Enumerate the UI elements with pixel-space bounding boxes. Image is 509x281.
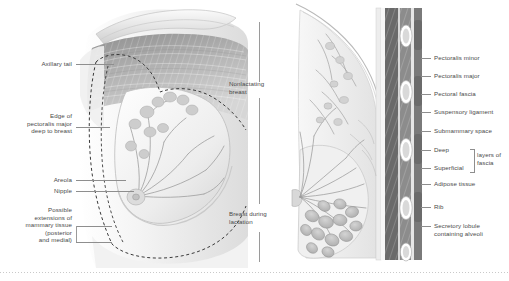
label-possible-extensions: Possible extensions of mammary tissue (p… [2,206,72,244]
label-secretory-lobule: Secretory lobule containing alveoli [434,222,508,237]
label-rib: Rib [434,203,474,211]
leader-pectoralis-minor [421,58,431,59]
divider-lactation-lower [259,232,260,262]
leader-possible-extensions-upper [76,226,112,227]
leader-pectoralis-major [421,76,431,77]
leader-nipple [76,191,134,192]
leader-adipose-tissue [421,184,431,185]
label-areola: Areola [18,176,72,184]
divider-nonlactating-lower [259,98,260,204]
label-nonlactating-breast: Nonlactating breast [229,80,289,95]
leader-axillary-tail [76,64,114,65]
right-illustration [292,4,422,262]
leader-areola [76,180,126,181]
leader-suspensory-ligament [421,112,431,113]
divider-nonlactating-upper [259,22,260,82]
label-superficial-fascia: Superficial [434,164,472,172]
label-breast-during-lactation: Breast during lactation [229,210,291,225]
label-pectoral-fascia: Pectoral fascia [434,90,508,98]
label-axillary-tail: Axillary tail [6,60,72,68]
left-illustration [80,10,248,268]
label-pectoralis-minor: Pectoralis minor [434,54,508,62]
label-adipose-tissue: Adipose tissue [434,180,508,188]
leader-secretory-lobule [421,226,431,227]
leader-submammary-space [421,131,431,132]
leader-edge-pectoralis-major [76,127,110,128]
bracket-layers-of-fascia [470,149,475,173]
figure-canvas: Axillary tail Edge of pectoralis major d… [0,0,509,281]
label-edge-pectoralis-major: Edge of pectoralis major deep to breast [2,112,72,135]
leader-deep-fascia [421,150,431,151]
label-deep-fascia: Deep [434,146,468,154]
leader-superficial-fascia [421,168,431,169]
leader-possible-extensions-lower [76,242,112,243]
label-submammary-space: Submammary space [434,127,509,135]
label-suspensory-ligament: Suspensory ligament [434,108,509,116]
leader-possible-extensions-bracket [76,226,77,242]
label-nipple: Nipple [18,187,72,195]
bottom-dotted-rule [0,272,509,273]
label-layers-of-fascia: layers of fascia [477,151,509,166]
label-pectoralis-major: Pectoralis major [434,72,508,80]
leader-rib [421,207,431,208]
leader-pectoral-fascia [421,94,431,95]
